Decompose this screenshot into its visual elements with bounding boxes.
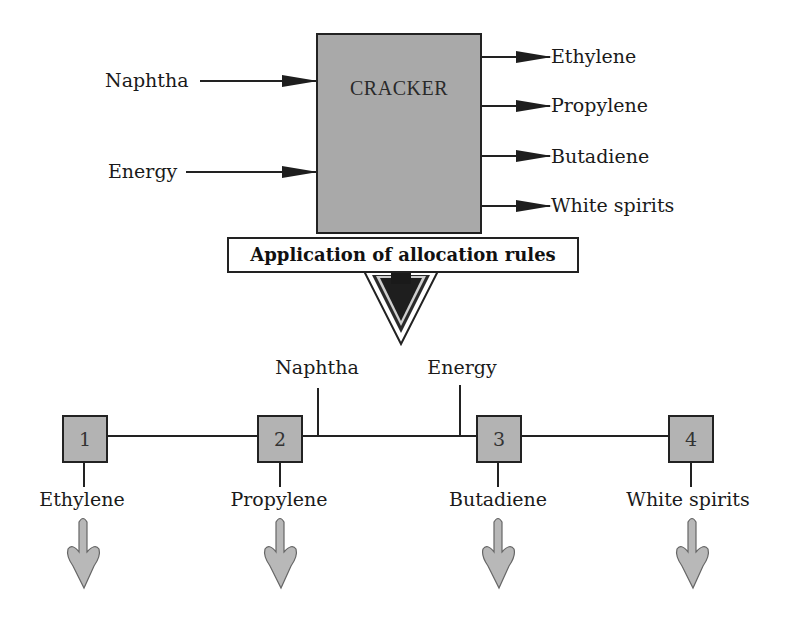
product-label-butadiene: Butadiene [449, 488, 547, 510]
allocation-rules-box: Application of allocation rules [227, 237, 579, 273]
cracker-process-box: CRACKER [316, 33, 482, 234]
product-label-white-spirits: White spirits [626, 488, 749, 510]
product-down-arrow-icon [68, 519, 100, 589]
product-label-propylene: Propylene [230, 488, 327, 510]
subsystem-node-3: 3 [476, 415, 522, 463]
output-label-butadiene: Butadiene [551, 145, 649, 167]
output-label-ethylene: Ethylene [551, 45, 636, 67]
input-label-naphtha: Naphtha [105, 69, 189, 91]
cracker-title: CRACKER [318, 77, 480, 100]
product-down-arrow-icon [265, 519, 297, 589]
input-label-energy: Energy [108, 160, 177, 182]
output-label-white-spirits: White spirits [551, 194, 674, 216]
product-label-ethylene: Ethylene [39, 488, 124, 510]
subsystem-node-1: 1 [62, 415, 108, 463]
output-label-propylene: Propylene [551, 94, 648, 116]
allocation-rules-label: Application of allocation rules [250, 244, 555, 265]
subsystem-input-label-naphtha: Naphtha [275, 356, 359, 378]
subsystem-node-4: 4 [668, 415, 714, 463]
subsystem-node-2: 2 [257, 415, 303, 463]
product-down-arrow-icon [483, 519, 515, 589]
subsystem-input-label-energy: Energy [427, 356, 496, 378]
product-down-arrow-icon [677, 519, 709, 589]
allocation-down-arrow-icon [364, 264, 438, 344]
